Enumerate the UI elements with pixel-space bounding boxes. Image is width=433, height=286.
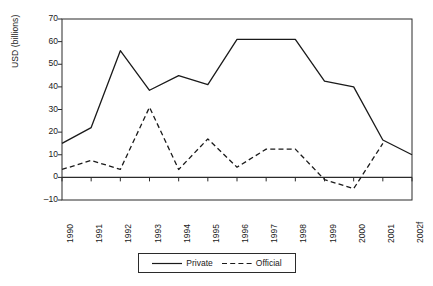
plot-area: [0, 0, 433, 286]
data-series-lines: [62, 39, 412, 188]
legend-entry-private: Private: [152, 258, 212, 268]
legend-entry-official: Official: [222, 258, 282, 268]
series-line-private: [62, 39, 412, 154]
series-line-official: [62, 107, 383, 188]
legend-label-private: Private: [186, 258, 212, 268]
plot-frame: [62, 19, 412, 200]
legend-label-official: Official: [256, 258, 282, 268]
legend-swatch-dashed: [222, 260, 252, 267]
legend-swatch-solid: [152, 260, 182, 267]
axis-ticks: [58, 19, 412, 200]
chart-container: USD (billions) 706050403020100–10 199019…: [0, 0, 433, 286]
chart-legend: Private Official: [138, 253, 296, 273]
